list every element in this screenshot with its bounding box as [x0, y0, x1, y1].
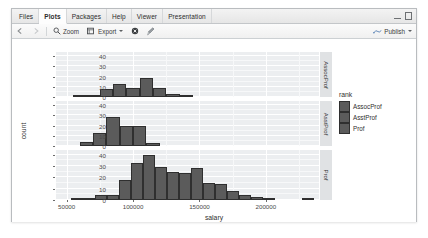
y-axis-tick-mark	[53, 146, 55, 147]
legend-entry-label: AssocProf	[353, 103, 382, 110]
x-axis-tick-mark	[67, 200, 68, 202]
toolbar-divider-1	[46, 27, 47, 36]
y-axis-tick-mark	[53, 105, 55, 106]
grid-line-vertical	[67, 101, 68, 146]
minimize-icon[interactable]	[394, 12, 401, 19]
x-axis-tick-label: 50000	[58, 203, 75, 210]
publish-chevron-down-icon[interactable]	[408, 30, 412, 32]
y-axis-tick-mark	[53, 126, 55, 127]
grid-line-vertical	[199, 101, 200, 146]
histogram-bar	[131, 163, 143, 201]
x-axis-tick-mark	[199, 200, 200, 202]
histogram-bar	[113, 84, 126, 97]
y-axis-tick-label: 0	[76, 143, 106, 150]
y-axis-tick-label: 10	[76, 185, 106, 192]
grid-line-vertical-minor	[299, 150, 300, 200]
zoom-button[interactable]: Zoom	[49, 25, 83, 38]
y-axis-tick-label: 30	[76, 112, 106, 119]
legend-entry: Prof	[339, 123, 409, 134]
chevron-down-icon[interactable]	[119, 30, 123, 32]
tab-files-label: Files	[19, 13, 33, 20]
legend: rank AssocProfAsstProfProf	[339, 91, 409, 134]
histogram-bar	[215, 184, 227, 200]
plots-pane-window: Files Plots Packages Help Viewer Present…	[11, 8, 417, 222]
tab-presentation-label: Presentation	[168, 13, 206, 20]
legend-entry-label: AsstProf	[353, 114, 377, 121]
grid-line-vertical	[67, 150, 68, 200]
histogram-bar	[120, 126, 133, 146]
grid-line-vertical	[266, 150, 267, 200]
grid-line-vertical	[67, 52, 68, 97]
y-axis-tick-label: 10	[76, 83, 106, 90]
tab-viewer-label: Viewer	[137, 13, 157, 20]
histogram-bar	[106, 117, 119, 146]
histogram-bar	[239, 195, 251, 200]
maximize-icon[interactable]	[405, 12, 413, 20]
x-axis-tick-mark	[266, 200, 267, 202]
histogram-bar	[302, 198, 314, 200]
tab-packages-label: Packages	[72, 13, 101, 20]
tab-help[interactable]: Help	[107, 9, 132, 23]
grid-line-vertical-minor	[166, 101, 167, 146]
grid-line-horizontal-minor	[56, 130, 319, 131]
screenshot-root: Files Plots Packages Help Viewer Present…	[0, 0, 428, 238]
clear-all-plots-icon	[147, 27, 155, 36]
y-axis-tick-mark	[53, 56, 55, 57]
y-axis-tick-mark	[53, 97, 55, 98]
tab-packages[interactable]: Packages	[67, 9, 107, 23]
y-axis-tick-mark	[53, 87, 55, 88]
histogram-bar	[179, 173, 191, 200]
histogram-bar	[133, 126, 146, 146]
x-axis-label: salary	[12, 214, 416, 221]
grid-line-vertical	[199, 52, 200, 97]
forward-button[interactable]	[28, 25, 44, 38]
y-axis-tick-label: 20	[76, 73, 106, 80]
grid-line-horizontal-minor	[56, 159, 319, 160]
facet-strip-label: AsstProf	[320, 101, 332, 146]
legend-key-swatch	[339, 101, 350, 112]
legend-key-swatch	[339, 123, 350, 134]
pane-tab-strip: Files Plots Packages Help Viewer Present…	[12, 9, 416, 24]
histogram-bar	[119, 180, 131, 200]
grid-line-vertical	[266, 52, 267, 97]
y-axis-tick-mark	[53, 77, 55, 78]
tab-files[interactable]: Files	[12, 9, 39, 23]
y-axis-tick-mark	[53, 200, 55, 201]
plot-canvas[interactable]: count salary 010203040AssocProf010203040…	[12, 39, 416, 222]
y-axis-tick-label: 20	[76, 174, 106, 181]
y-axis-tick-label: 30	[76, 63, 106, 70]
facet-strip-label: AssocProf	[320, 52, 332, 97]
publish-button[interactable]: Publish	[369, 25, 416, 38]
tab-strip-filler	[212, 9, 416, 23]
y-axis-label: count	[20, 122, 27, 139]
y-axis-tick-mark	[53, 66, 55, 67]
back-button[interactable]	[12, 25, 28, 38]
grid-line-horizontal-minor	[56, 91, 319, 92]
grid-line-horizontal-minor	[56, 171, 319, 172]
tab-viewer[interactable]: Viewer	[132, 9, 163, 23]
y-axis-tick-mark	[53, 155, 55, 156]
grid-line-vertical-minor	[166, 52, 167, 97]
y-axis-tick-label: 40	[76, 53, 106, 60]
legend-entries: AssocProfAsstProfProf	[339, 101, 409, 134]
plots-toolbar: Zoom Export	[12, 24, 416, 39]
histogram-bar	[107, 195, 119, 200]
clear-all-plots-button[interactable]	[143, 25, 159, 38]
tab-presentation[interactable]: Presentation	[163, 9, 212, 23]
y-axis-tick-label: 30	[76, 162, 106, 169]
export-button[interactable]: Export	[83, 25, 127, 38]
legend-entry: AssocProf	[339, 101, 409, 112]
tab-plots[interactable]: Plots	[39, 9, 66, 24]
grid-line-horizontal-minor	[56, 119, 319, 120]
histogram-bar	[155, 167, 167, 200]
tab-plots-label: Plots	[44, 13, 60, 20]
histogram-bar	[251, 197, 263, 200]
tab-help-label: Help	[112, 13, 126, 20]
grid-line-horizontal-minor	[56, 70, 319, 71]
histogram-bar	[203, 183, 215, 200]
remove-plot-button[interactable]	[127, 25, 143, 38]
y-axis-tick-mark	[53, 177, 55, 178]
y-axis-tick-label: 40	[76, 102, 106, 109]
x-axis-tick-label: 200000	[256, 203, 277, 210]
y-axis-tick-mark	[53, 189, 55, 190]
